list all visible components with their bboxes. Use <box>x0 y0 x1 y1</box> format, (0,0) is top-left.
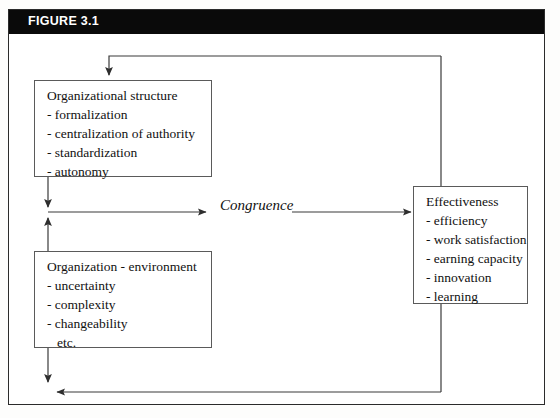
node-item: - complexity <box>35 295 211 314</box>
node-effectiveness: Effectiveness - efficiency - work satisf… <box>413 186 528 304</box>
node-item: - standardization <box>35 143 211 162</box>
figure-root: FIGURE 3.1 <box>0 0 560 418</box>
node-item: - uncertainty <box>35 276 211 295</box>
node-item: - earning capacity <box>414 249 527 268</box>
node-item: - changeability <box>35 314 211 333</box>
node-title: Effectiveness <box>414 192 527 211</box>
node-item: - centralization of authority <box>35 124 211 143</box>
node-organization-environment: Organization - environment - uncertainty… <box>34 251 212 348</box>
figure-header-bar: FIGURE 3.1 <box>9 10 544 34</box>
node-title: Organization - environment <box>35 257 211 276</box>
figure-number-label: FIGURE 3.1 <box>28 14 99 28</box>
node-item: - autonomy <box>35 162 211 181</box>
node-organizational-structure: Organizational structure - formalization… <box>34 80 212 177</box>
node-item: - learning <box>414 287 527 306</box>
node-item: etc. <box>35 333 211 352</box>
congruence-relation-label: Congruence <box>220 197 293 214</box>
node-title: Organizational structure <box>35 86 211 105</box>
node-item: - formalization <box>35 105 211 124</box>
node-item: - innovation <box>414 268 527 287</box>
figure-frame: FIGURE 3.1 <box>8 9 545 405</box>
diagram-canvas: Organizational structure - formalization… <box>9 34 544 404</box>
node-item: - work satisfaction <box>414 230 527 249</box>
node-item: - efficiency <box>414 211 527 230</box>
edge-effectiveness-to-structure <box>109 56 441 75</box>
